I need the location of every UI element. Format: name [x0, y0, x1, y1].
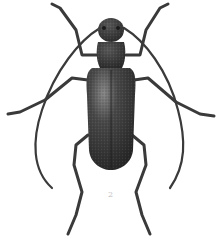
beetle-drawing [0, 0, 219, 243]
head [98, 18, 124, 42]
elytra [87, 68, 136, 170]
thorax [97, 42, 126, 68]
figure-label: 2 [108, 190, 113, 199]
beetle-illustration: 2 [0, 0, 219, 243]
